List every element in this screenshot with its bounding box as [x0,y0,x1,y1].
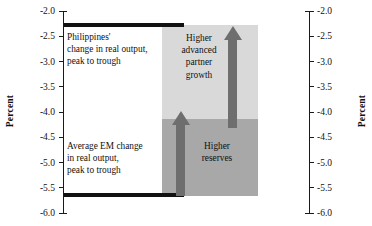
arrow-head-icon [172,111,190,125]
callout-average-em: Average EM change in real output, peak t… [67,140,179,177]
axis-tick-label-right: -5.5 [317,183,350,193]
axis-tick-right [309,86,314,87]
axis-tick-left [59,112,64,113]
axis-tick-label-left: -3.5 [22,82,55,92]
axis-tick-label-right: -2.5 [317,31,350,41]
axis-tick-right [309,61,314,62]
axis-tick-left [59,162,64,163]
axis-spine-cap-left-bottom [63,213,67,214]
axis-tick-label-left: -5.0 [22,158,55,168]
axis-spine-cap-right-top [305,11,309,12]
axis-tick-right [309,187,314,188]
marker-bar-average-em [63,193,184,197]
axis-tick-right [309,112,314,113]
axis-tick-right [309,137,314,138]
axis-tick-label-right: -3.5 [317,82,350,92]
axis-tick-right [309,36,314,37]
axis-tick-right [309,162,314,163]
axis-tick-right [309,11,314,12]
axis-tick-label-right: -5.0 [317,158,350,168]
axis-tick-label-left: -3.0 [22,57,55,67]
axis-spine-left [63,11,64,213]
marker-bar-philippines [63,23,184,27]
axis-spine-cap-left-top [63,11,67,12]
axis-tick-left [59,137,64,138]
axis-tick-left [59,86,64,87]
axis-tick-label-right: -2.0 [317,6,350,16]
axis-tick-label-left: -4.5 [22,132,55,142]
axis-tick-label-left: -2.0 [22,6,55,16]
axis-tick-left [59,36,64,37]
axis-tick-label-right: -3.0 [317,57,350,67]
block-label-higher-reserves: Higher reserves [186,140,248,164]
axis-tick-label-left: -4.0 [22,107,55,117]
axis-tick-label-left: -5.5 [22,183,55,193]
axis-title-right: Percent [357,88,367,134]
axis-tick-left [59,61,64,62]
axis-tick-label-left: -6.0 [22,208,55,218]
axis-title-left: Percent [5,88,15,134]
chart-container: Higher advanced partner growth Higher re… [0,0,372,226]
axis-tick-right [309,213,314,214]
axis-tick-left [59,187,64,188]
axis-tick-label-right: -6.0 [317,208,350,218]
axis-tick-label-right: -4.0 [317,107,350,117]
axis-tick-label-left: -2.5 [22,31,55,41]
axis-spine-cap-right-bottom [305,213,309,214]
axis-tick-label-right: -4.5 [317,132,350,142]
callout-philippines: Philippines' change in real output, peak… [67,31,179,68]
